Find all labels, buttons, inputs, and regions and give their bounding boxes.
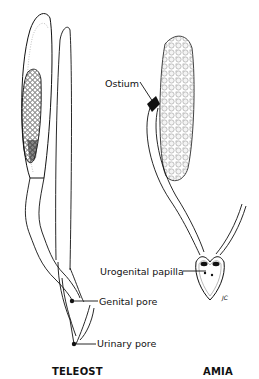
caption-teleost: TELEOST — [52, 366, 103, 377]
ostium-leader — [140, 82, 153, 102]
label-urinary-pore: Urinary pore — [97, 338, 156, 349]
label-genital-pore: Genital pore — [99, 296, 157, 307]
teleost-ovary — [22, 14, 52, 178]
label-ostium: Ostium — [105, 78, 139, 89]
teleost-kidney-duct — [56, 27, 72, 270]
label-urogenital-papilla: Urogenital papilla — [100, 266, 184, 277]
teleost-sinus — [58, 262, 94, 344]
urinary-pore-dot — [72, 342, 76, 346]
amia-ureter — [216, 204, 246, 255]
artist-signature: JC — [222, 292, 228, 303]
amia-ovary — [160, 36, 194, 181]
caption-amia: AMIA — [203, 366, 233, 377]
genital-pore-dot — [70, 299, 74, 303]
teleost-oviduct — [25, 178, 80, 300]
diagram-artwork — [0, 0, 259, 379]
amia-papilla — [196, 257, 225, 300]
